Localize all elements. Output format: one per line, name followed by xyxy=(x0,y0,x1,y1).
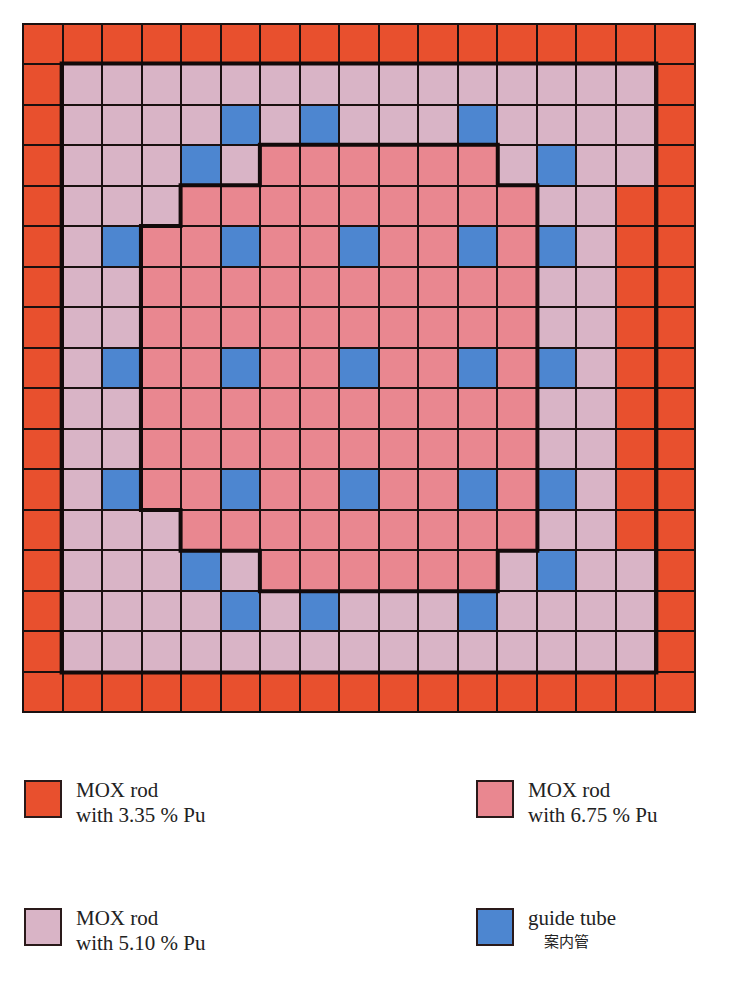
cell-rod-6-75-pu xyxy=(222,308,260,346)
cell-guide-tube xyxy=(340,349,378,387)
cell-rod-5-10-pu xyxy=(617,106,655,144)
cell-rod-6-75-pu xyxy=(459,146,497,184)
cell-guide-tube xyxy=(103,470,141,508)
cell-rod-3-35-pu xyxy=(64,673,102,711)
cell-rod-3-35-pu xyxy=(459,673,497,711)
cell-rod-3-35-pu xyxy=(459,25,497,63)
cell-rod-5-10-pu xyxy=(222,551,260,589)
cell-rod-6-75-pu xyxy=(222,187,260,225)
cell-rod-5-10-pu xyxy=(577,470,615,508)
legend-label-japanese: 案内管 xyxy=(544,931,616,953)
cell-rod-5-10-pu xyxy=(143,106,181,144)
cell-rod-6-75-pu xyxy=(498,430,536,468)
cell-rod-5-10-pu xyxy=(538,187,576,225)
cell-rod-5-10-pu xyxy=(498,106,536,144)
cell-rod-6-75-pu xyxy=(419,146,457,184)
cell-rod-6-75-pu xyxy=(459,187,497,225)
cell-guide-tube xyxy=(222,227,260,265)
cell-rod-3-35-pu xyxy=(24,146,62,184)
cell-rod-3-35-pu xyxy=(656,227,694,265)
cell-guide-tube xyxy=(538,470,576,508)
cell-rod-5-10-pu xyxy=(222,146,260,184)
cell-rod-6-75-pu xyxy=(222,430,260,468)
legend-label-line1: MOX rod xyxy=(528,778,658,803)
cell-rod-6-75-pu xyxy=(182,430,220,468)
cell-rod-5-10-pu xyxy=(617,551,655,589)
cell-rod-6-75-pu xyxy=(261,389,299,427)
cell-rod-6-75-pu xyxy=(340,268,378,306)
cell-rod-3-35-pu xyxy=(222,673,260,711)
cell-rod-6-75-pu xyxy=(222,389,260,427)
cell-rod-6-75-pu xyxy=(380,227,418,265)
cell-rod-6-75-pu xyxy=(301,349,339,387)
cell-rod-6-75-pu xyxy=(261,227,299,265)
cell-rod-5-10-pu xyxy=(419,106,457,144)
cell-rod-3-35-pu xyxy=(143,25,181,63)
cell-rod-3-35-pu xyxy=(617,187,655,225)
cell-rod-5-10-pu xyxy=(617,146,655,184)
legend-label-line2: with 5.10 % Pu xyxy=(76,931,206,956)
cell-rod-6-75-pu xyxy=(143,470,181,508)
cell-rod-6-75-pu xyxy=(261,187,299,225)
legend-label-line2: with 3.35 % Pu xyxy=(76,803,206,828)
legend-label-line1: MOX rod xyxy=(76,906,206,931)
cell-rod-3-35-pu xyxy=(24,308,62,346)
cell-rod-5-10-pu xyxy=(261,592,299,630)
cell-guide-tube xyxy=(459,349,497,387)
cell-rod-6-75-pu xyxy=(301,146,339,184)
cell-rod-6-75-pu xyxy=(419,268,457,306)
cell-rod-5-10-pu xyxy=(143,146,181,184)
cell-rod-6-75-pu xyxy=(222,511,260,549)
cell-rod-5-10-pu xyxy=(419,632,457,670)
cell-rod-3-35-pu xyxy=(577,673,615,711)
cell-rod-5-10-pu xyxy=(577,268,615,306)
cell-rod-6-75-pu xyxy=(498,268,536,306)
cell-rod-3-35-pu xyxy=(24,25,62,63)
cell-rod-3-35-pu xyxy=(656,470,694,508)
cell-rod-3-35-pu xyxy=(498,673,536,711)
cell-rod-5-10-pu xyxy=(538,268,576,306)
cell-rod-6-75-pu xyxy=(419,389,457,427)
cell-rod-5-10-pu xyxy=(380,592,418,630)
cell-rod-5-10-pu xyxy=(617,632,655,670)
cell-rod-6-75-pu xyxy=(380,470,418,508)
cell-rod-5-10-pu xyxy=(498,632,536,670)
cell-rod-3-35-pu xyxy=(656,632,694,670)
cell-rod-6-75-pu xyxy=(182,511,220,549)
cell-rod-6-75-pu xyxy=(419,430,457,468)
cell-rod-6-75-pu xyxy=(380,308,418,346)
legend-item-guide-tube: guide tube 案内管 xyxy=(476,906,616,953)
cell-guide-tube xyxy=(459,470,497,508)
legend-item-3-35-pu: MOX rod with 3.35 % Pu xyxy=(24,778,206,828)
cell-rod-5-10-pu xyxy=(64,349,102,387)
cell-rod-3-35-pu xyxy=(24,430,62,468)
cell-rod-5-10-pu xyxy=(64,430,102,468)
cell-rod-3-35-pu xyxy=(24,268,62,306)
legend-swatch-pink xyxy=(476,780,514,818)
cell-rod-5-10-pu xyxy=(459,65,497,103)
cell-rod-5-10-pu xyxy=(577,632,615,670)
cell-rod-6-75-pu xyxy=(419,470,457,508)
cell-rod-5-10-pu xyxy=(143,592,181,630)
cell-rod-5-10-pu xyxy=(498,146,536,184)
cell-rod-6-75-pu xyxy=(340,308,378,346)
cell-rod-6-75-pu xyxy=(261,511,299,549)
cell-rod-3-35-pu xyxy=(24,389,62,427)
cell-rod-5-10-pu xyxy=(103,106,141,144)
cell-rod-6-75-pu xyxy=(222,268,260,306)
cell-rod-3-35-pu xyxy=(577,25,615,63)
cell-rod-6-75-pu xyxy=(182,227,220,265)
cell-rod-5-10-pu xyxy=(103,511,141,549)
cell-rod-6-75-pu xyxy=(340,551,378,589)
cell-rod-6-75-pu xyxy=(261,430,299,468)
cell-rod-6-75-pu xyxy=(182,268,220,306)
cell-rod-3-35-pu xyxy=(24,673,62,711)
cell-rod-5-10-pu xyxy=(577,511,615,549)
cell-rod-5-10-pu xyxy=(103,65,141,103)
cell-rod-6-75-pu xyxy=(301,511,339,549)
cell-rod-5-10-pu xyxy=(64,632,102,670)
cell-rod-5-10-pu xyxy=(577,349,615,387)
cell-rod-5-10-pu xyxy=(261,65,299,103)
cell-rod-3-35-pu xyxy=(103,673,141,711)
legend-label-line1: MOX rod xyxy=(76,778,206,803)
